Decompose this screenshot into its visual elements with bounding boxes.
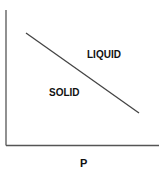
phase-diagram: LIQUID SOLID P xyxy=(0,0,167,173)
region-label-liquid: LIQUID xyxy=(87,49,121,60)
region-label-solid: SOLID xyxy=(49,87,80,98)
x-axis-label: P xyxy=(80,157,87,169)
phase-boundary-line xyxy=(26,33,139,113)
